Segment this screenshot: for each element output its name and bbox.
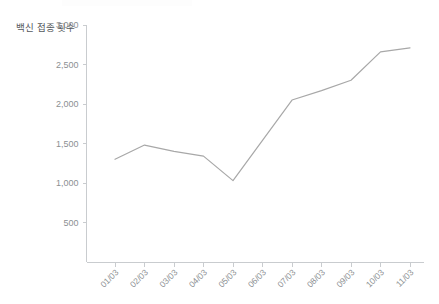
x-tick-label: 06/03 [246, 267, 268, 289]
y-tick-label: 2,500 [56, 60, 79, 70]
x-tick-label: 05/03 [216, 267, 238, 289]
y-tick-group: 5001,0001,5002,0002,5003,000 [56, 20, 87, 228]
x-tick-label: 08/03 [305, 267, 327, 289]
y-axis: 5001,0001,5002,0002,5003,000 [56, 20, 87, 262]
x-tick-label: 03/03 [157, 267, 179, 289]
x-tick-label: 04/03 [187, 267, 209, 289]
x-tick-label: 02/03 [128, 267, 150, 289]
x-tick-label: 07/03 [275, 267, 297, 289]
y-tick-label: 1,000 [56, 178, 79, 188]
x-tick-group: 01/0302/0303/0304/0305/0306/0307/0308/03… [98, 262, 415, 289]
y-tick-label: 2,000 [56, 99, 79, 109]
line-chart-figure: 백신 접종 횟수 5001,0001,5002,0002,5003,000 01… [0, 0, 439, 304]
x-tick-label: 09/03 [334, 267, 356, 289]
y-tick-label: 3,000 [56, 20, 79, 30]
x-tick-label: 10/03 [364, 267, 386, 289]
x-axis: 01/0302/0303/0304/0305/0306/0307/0308/03… [87, 262, 425, 289]
x-tick-label: 01/03 [98, 267, 120, 289]
chart-canvas: 백신 접종 횟수 5001,0001,5002,0002,5003,000 01… [0, 0, 439, 304]
x-tick-label: 11/03 [394, 267, 416, 289]
series-line-vaccination-count [115, 48, 410, 181]
y-tick-label: 1,500 [56, 139, 79, 149]
y-tick-label: 500 [63, 218, 78, 228]
